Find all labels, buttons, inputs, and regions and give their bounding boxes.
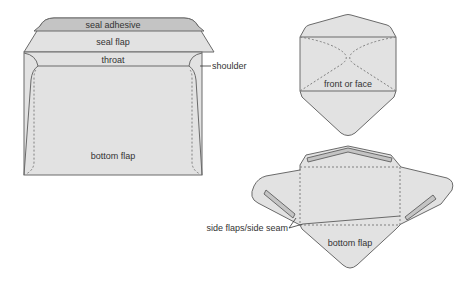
front-or-face-label: front or face bbox=[324, 79, 372, 89]
bottom-flap-label-unfolded: bottom flap bbox=[328, 238, 373, 248]
side-flaps-label: side flaps/side seam bbox=[206, 223, 288, 233]
throat-label: throat bbox=[101, 55, 125, 65]
bottom-flap-label: bottom flap bbox=[91, 151, 136, 161]
front-envelope: front or face bbox=[300, 15, 396, 136]
unfolded-envelope: bottom flap side flaps/side seam bbox=[206, 146, 452, 268]
shoulder-label: shoulder bbox=[212, 61, 247, 71]
seal-adhesive-label: seal adhesive bbox=[85, 20, 140, 30]
front-envelope-outline bbox=[300, 15, 396, 136]
seal-flap-label: seal flap bbox=[96, 37, 130, 47]
left-envelope: seal adhesive seal flap throat bottom fl… bbox=[24, 18, 247, 175]
